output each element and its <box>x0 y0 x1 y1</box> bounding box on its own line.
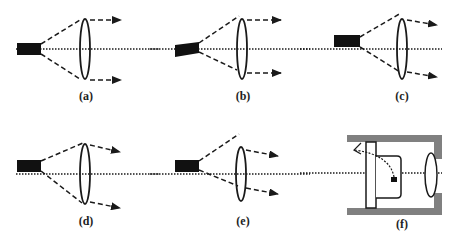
beam-ray-lower <box>360 47 400 72</box>
output-beam-lower <box>90 202 120 208</box>
diagram-canvas <box>0 0 457 240</box>
housing-bottom-wall <box>347 208 442 215</box>
lens <box>425 153 437 197</box>
panel-label-b: (b) <box>236 89 251 104</box>
housing-right-wall-top <box>434 135 442 159</box>
panel-f <box>300 135 442 215</box>
beam-ray-lower <box>199 170 238 186</box>
arrowhead-chevron <box>354 143 361 154</box>
beam-ray-lower <box>41 171 82 203</box>
beam-ray-upper <box>41 20 80 44</box>
panel-label-f: (f) <box>396 217 408 232</box>
panel-d <box>16 143 160 208</box>
output-beam-lower <box>407 72 437 77</box>
output-beam-upper <box>407 20 437 25</box>
laser-diode <box>17 43 41 55</box>
laser-diode <box>334 35 360 47</box>
beam-ray-upper <box>41 143 83 161</box>
laser-diode <box>175 160 199 172</box>
panel-label-d: (d) <box>79 214 94 229</box>
laser-holder <box>376 156 401 198</box>
output-beam-upper <box>246 150 278 156</box>
output-beam-lower <box>246 188 278 194</box>
panel-b <box>150 16 310 79</box>
panel-label-a: (a) <box>79 89 93 104</box>
beam-ray-upper <box>360 13 401 37</box>
beam-ray-lower <box>41 54 80 79</box>
laser-diode <box>175 42 199 57</box>
panel-e <box>150 134 310 201</box>
output-beam-upper <box>90 145 120 152</box>
housing-right-wall-bottom <box>434 193 442 215</box>
mount-plate <box>366 142 376 208</box>
panel-c <box>300 13 442 79</box>
panel-label-e: (e) <box>236 214 249 229</box>
beam-ray-lower <box>199 52 237 70</box>
beam-ray-upper <box>199 16 239 43</box>
optics-diagram: (a) (b) (c) (d) (e) (f) <box>0 0 457 240</box>
panel-a <box>16 19 160 80</box>
laser-chip <box>391 177 397 182</box>
laser-diode <box>17 160 41 172</box>
panel-label-c: (c) <box>395 89 408 104</box>
beam-ray-upper <box>199 134 239 161</box>
housing-top-wall <box>347 135 442 142</box>
